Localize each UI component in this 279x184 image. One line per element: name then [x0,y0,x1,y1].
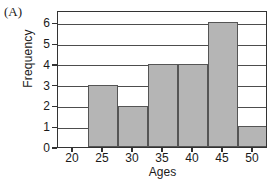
y-tick-label-text: 5 [30,38,50,50]
histogram-bar [148,64,178,147]
x-tick-label: 45 [207,151,237,165]
y-tick-label: 0 [30,142,50,154]
y-tick-label-text: 6 [30,17,50,29]
histogram-bar [178,64,208,147]
y-tick-label: 5 [30,38,50,50]
x-tick-label-text: 25 [87,151,117,165]
x-tick-label-text: 35 [147,151,177,165]
y-tick-label: 1 [30,121,50,133]
y-tick-label-text: 1 [30,121,50,133]
y-tick-label-text: 2 [30,100,50,112]
x-tick-label-text: 30 [117,151,147,165]
y-tick-label: 2 [30,100,50,112]
y-tick-label-text: 0 [30,142,50,154]
plot-area [57,11,267,148]
y-tick-label: 3 [30,80,50,92]
x-tick-label-text: 50 [237,151,267,165]
y-tick-label-text: 3 [30,80,50,92]
y-tick-label: 4 [30,59,50,71]
x-tick-label-text: 45 [207,151,237,165]
x-tick-label: 20 [57,151,87,165]
histogram-bar [208,22,238,147]
x-tick-label-text: 40 [177,151,207,165]
y-tick-label: 6 [30,17,50,29]
figure-panel-a: (A) Frequency Ages 0123456 2025303540455… [0,0,279,184]
x-tick-label-text: 20 [57,151,87,165]
panel-label: (A) [4,5,22,19]
histogram-bar [118,106,148,148]
x-axis-title: Ages [57,166,268,179]
y-tick-label-text: 4 [30,59,50,71]
histogram-bar [238,126,267,147]
x-tick-label: 30 [117,151,147,165]
histogram-bar [88,85,118,147]
x-tick-label: 40 [177,151,207,165]
x-tick-label: 25 [87,151,117,165]
x-tick-label: 35 [147,151,177,165]
x-tick-label: 50 [237,151,267,165]
